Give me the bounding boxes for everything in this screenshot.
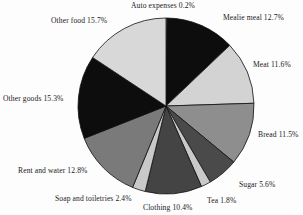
- pie-slice-group: [78, 18, 254, 194]
- pie-label-auto-expenses: Auto expenses 0.2%: [131, 1, 195, 10]
- pie-label-mealie-meal: Mealie meal 12.7%: [223, 13, 284, 22]
- pie-label-rent-and-water: Rent and water 12.8%: [18, 166, 87, 175]
- pie-label-meat: Meat 11.6%: [253, 60, 291, 69]
- pie-chart-figure: Auto expenses 0.2% Mealie meal 12.7% Mea…: [0, 0, 303, 215]
- pie-label-other-goods: Other goods 15.3%: [3, 94, 64, 103]
- pie-label-clothing: Clothing 10.4%: [143, 203, 193, 212]
- pie-label-sugar: Sugar 5.6%: [239, 180, 275, 189]
- pie-label-soap-and-toiletries: Soap and toiletries 2.4%: [55, 194, 132, 203]
- pie-label-bread: Bread 11.5%: [258, 130, 298, 139]
- pie-label-tea: Tea 1.8%: [207, 196, 236, 205]
- pie-label-other-food: Other food 15.7%: [51, 16, 107, 25]
